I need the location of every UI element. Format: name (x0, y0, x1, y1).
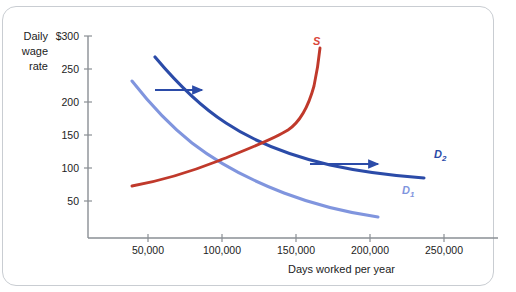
supply-demand-chart: $300 250 200 150 100 50 Daily wage rate … (0, 0, 516, 292)
y-tick-label-300: $300 (56, 30, 80, 42)
demand-curve-d1-label: D1 (402, 184, 415, 199)
demand-curve-d2 (155, 57, 424, 178)
y-tick-label-50: 50 (67, 195, 79, 207)
y-axis-title-line1: Daily (24, 30, 49, 42)
supply-curve-label: S (313, 35, 321, 47)
x-tick-labels: 50,000 100,000 150,000 200,000 250,000 (132, 244, 463, 256)
figure-root: $300 250 200 150 100 50 Daily wage rate … (0, 0, 516, 292)
x-tick-label-250000: 250,000 (425, 244, 463, 256)
axis-group (88, 36, 498, 238)
y-axis-title: Daily wage rate (21, 30, 49, 72)
demand-curve-d1 (132, 81, 378, 217)
demand-curve-d2-label: D2 (434, 148, 447, 163)
x-tick-label-200000: 200,000 (351, 244, 389, 256)
x-tick-label-50000: 50,000 (132, 244, 164, 256)
y-tick-label-200: 200 (61, 96, 79, 108)
demand-curve-d2-label-sub: 2 (441, 154, 447, 163)
demand-curve-d1-label-sub: 1 (410, 190, 415, 199)
supply-curve-label-text: S (313, 35, 321, 47)
y-tick-label-150: 150 (61, 129, 79, 141)
demand-curve-d1-label-base: D (402, 184, 410, 196)
x-tick-label-150000: 150,000 (277, 244, 315, 256)
y-tick-label-250: 250 (61, 63, 79, 75)
x-axis-title: Days worked per year (288, 263, 395, 275)
y-tick-labels: $300 250 200 150 100 50 (56, 30, 80, 207)
x-tick-label-100000: 100,000 (203, 244, 241, 256)
demand-curve-d2-label-base: D (434, 148, 442, 160)
y-tick-label-100: 100 (61, 162, 79, 174)
y-axis-title-line2: wage (21, 45, 48, 57)
y-axis-title-line3: rate (29, 60, 48, 72)
